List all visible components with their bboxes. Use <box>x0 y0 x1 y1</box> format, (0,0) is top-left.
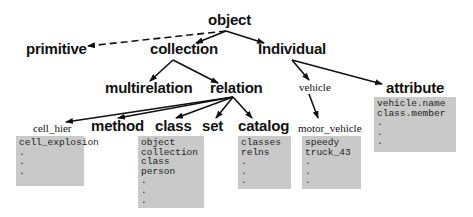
instance-item: person <box>141 167 201 177</box>
instance-item: . <box>141 186 201 196</box>
instance-item: . <box>141 196 201 206</box>
node-collection: collection <box>150 41 218 56</box>
node-catalog: catalog <box>238 118 289 133</box>
node-cell-hier: cell_hier <box>33 123 71 134</box>
instance-item: . <box>305 167 358 177</box>
instance-item: relns <box>241 148 288 158</box>
instance-item: . <box>377 128 453 138</box>
node-individual: Individual <box>258 41 326 56</box>
node-attribute: attribute <box>386 80 444 95</box>
edge-relation-catalog <box>233 97 252 118</box>
instance-item: cell_explosion <box>19 138 81 148</box>
edge-vehicle-motor-vehicle <box>309 94 318 118</box>
instance-item: . <box>241 176 288 186</box>
type-hierarchy-diagram: object primitive collection Individual m… <box>0 0 473 217</box>
instance-item: . <box>19 167 81 177</box>
edge-relation-method <box>118 97 233 118</box>
instance-item: . <box>305 176 358 186</box>
instance-item: . <box>305 157 358 167</box>
node-relation: relation <box>210 80 263 95</box>
instance-box-motor-vehicle: speedy truck_43 . . . <box>302 136 361 189</box>
node-method: method <box>91 118 144 133</box>
instance-item: . <box>241 167 288 177</box>
node-class: class <box>155 118 192 133</box>
instance-item: . <box>377 137 453 147</box>
instance-box-cell-hier: cell_explosion . . . <box>16 136 84 186</box>
instance-box-attribute: vehicle.name class.member . . . <box>374 97 456 152</box>
instance-item: . <box>141 176 201 186</box>
instance-item: . <box>377 118 453 128</box>
instance-item: . <box>19 148 81 158</box>
node-motor-vehicle: motor_vehicle <box>298 123 362 134</box>
node-multirelation: multirelation <box>105 80 192 95</box>
node-vehicle: vehicle <box>299 82 331 93</box>
node-set: set <box>202 118 223 133</box>
edge-collection-multirelation <box>150 60 173 81</box>
instance-item: class.member <box>377 109 453 119</box>
node-object: object <box>208 12 251 27</box>
instance-item: . <box>19 157 81 167</box>
instance-box-class: object collection class person . . . <box>138 136 204 208</box>
instance-item: truck_43 <box>305 148 358 158</box>
node-primitive: primitive <box>26 41 87 56</box>
instance-item: . <box>241 157 288 167</box>
instance-box-catalog: classes relns . . . <box>238 136 291 189</box>
